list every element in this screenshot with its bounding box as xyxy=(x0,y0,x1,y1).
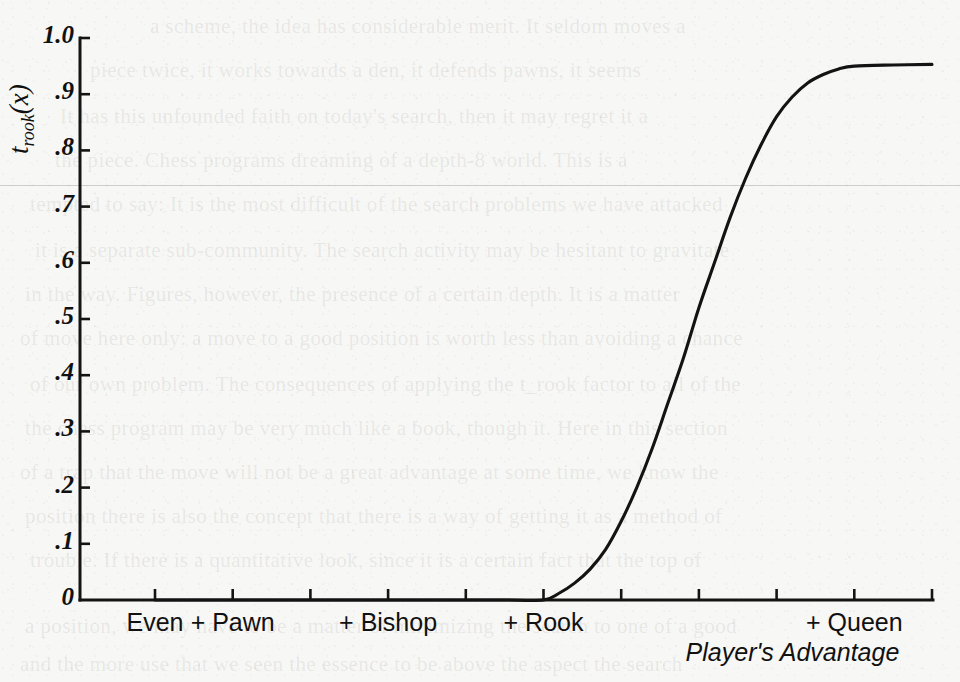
x-axis-label: Player's Advantage xyxy=(614,638,899,667)
y-tick-label: .1 xyxy=(55,527,74,555)
y-axis-label: trook(x) xyxy=(4,84,39,154)
y-tick-label: .9 xyxy=(55,77,74,105)
data-curve xyxy=(155,64,932,600)
y-tick-label: .4 xyxy=(55,358,74,386)
y-tick-label: .5 xyxy=(55,302,74,330)
y-axis-label-argument: (x) xyxy=(4,84,34,114)
x-tick-label: + Rook xyxy=(424,608,664,637)
y-axis-label-subscript: rook xyxy=(18,114,38,146)
y-tick-label: .3 xyxy=(55,414,74,442)
y-axis-label-base: t xyxy=(4,146,34,154)
y-tick-label: 1.0 xyxy=(43,21,74,49)
y-tick-label: .6 xyxy=(55,246,74,274)
y-tick-label: .7 xyxy=(55,190,74,218)
chart-svg xyxy=(0,0,960,682)
y-tick-label: 0 xyxy=(62,583,75,611)
y-tick-label: .2 xyxy=(55,471,74,499)
x-tick-label: + Queen xyxy=(734,608,960,637)
y-tick-label: .8 xyxy=(55,133,74,161)
x-tick-marks xyxy=(155,589,932,600)
axes-group xyxy=(80,38,933,600)
line-chart: 1.0.9.8.7.6.5.4.3.2.10 Even+ Pawn+ Bisho… xyxy=(0,0,960,682)
